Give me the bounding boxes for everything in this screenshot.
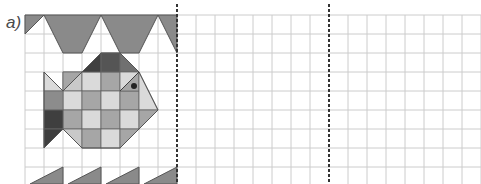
grid-figure <box>0 0 481 184</box>
fish-shape <box>44 53 158 148</box>
bottom-sawtooth-pattern <box>30 167 177 184</box>
fish-eye <box>131 83 137 89</box>
